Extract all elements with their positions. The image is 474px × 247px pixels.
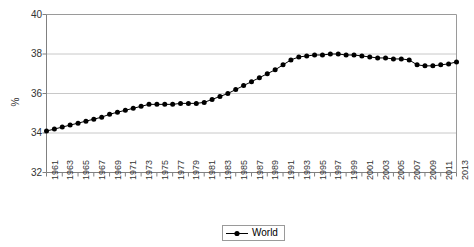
x-tick-label-1977: 1977 xyxy=(177,159,186,179)
x-tick-label-1993: 1993 xyxy=(303,159,312,179)
x-tick-label-2003: 2003 xyxy=(382,159,391,179)
data-point xyxy=(446,61,451,66)
x-tick-label-1997: 1997 xyxy=(334,159,343,179)
data-point xyxy=(344,52,349,57)
data-point xyxy=(194,101,199,106)
x-tick-label-2001: 2001 xyxy=(366,159,375,179)
data-point xyxy=(296,54,301,59)
x-tick-label-2013: 2013 xyxy=(461,159,470,179)
x-tick-label-1967: 1967 xyxy=(98,159,107,179)
data-point xyxy=(399,56,404,61)
data-point xyxy=(249,79,254,84)
x-tick-label-1969: 1969 xyxy=(114,159,123,179)
data-point xyxy=(139,104,144,109)
line-chart: % 3234363840 196119631965196719691971197… xyxy=(0,0,474,247)
data-point xyxy=(438,62,443,67)
data-point xyxy=(147,102,152,107)
data-point xyxy=(241,83,246,88)
data-point xyxy=(44,129,49,134)
data-point xyxy=(320,52,325,57)
x-tick-label-1981: 1981 xyxy=(208,159,217,179)
data-point xyxy=(367,54,372,59)
data-point xyxy=(422,63,427,68)
data-point xyxy=(178,101,183,106)
data-point xyxy=(407,57,412,62)
data-point xyxy=(257,75,262,80)
data-point xyxy=(170,102,175,107)
legend-item-world: World xyxy=(252,227,278,239)
data-point xyxy=(304,53,309,58)
x-tick-label-1973: 1973 xyxy=(145,159,154,179)
data-point xyxy=(383,55,388,60)
data-point xyxy=(68,123,73,128)
data-point xyxy=(328,52,333,57)
x-tick-label-2009: 2009 xyxy=(429,159,438,179)
data-point xyxy=(352,52,357,57)
data-point xyxy=(312,52,317,57)
x-tick-label-1965: 1965 xyxy=(82,159,91,179)
data-point xyxy=(52,127,57,132)
data-point xyxy=(107,112,112,117)
data-point xyxy=(186,101,191,106)
series-line-world xyxy=(47,54,457,131)
data-point xyxy=(131,106,136,111)
data-point xyxy=(123,108,128,113)
data-point xyxy=(60,125,65,130)
x-tick-label-1971: 1971 xyxy=(129,159,138,179)
x-tick-label-2007: 2007 xyxy=(413,159,422,179)
data-point xyxy=(76,121,81,126)
x-tick-label-1961: 1961 xyxy=(51,159,60,179)
data-point xyxy=(375,55,380,60)
legend-marker-icon xyxy=(226,229,248,238)
chart-legend: World xyxy=(222,225,285,241)
data-point xyxy=(288,57,293,62)
x-tick-label-1987: 1987 xyxy=(256,159,265,179)
x-tick-label-1999: 1999 xyxy=(350,159,359,179)
x-tick-label-1991: 1991 xyxy=(287,159,296,179)
data-point xyxy=(99,115,104,120)
data-point xyxy=(162,102,167,107)
data-point xyxy=(233,87,238,92)
data-point xyxy=(217,94,222,99)
data-point xyxy=(91,117,96,122)
data-point xyxy=(454,59,459,64)
data-point xyxy=(202,100,207,105)
x-tick-label-1979: 1979 xyxy=(192,159,201,179)
data-point xyxy=(154,102,159,107)
x-tick-label-2011: 2011 xyxy=(445,160,454,179)
data-point xyxy=(391,56,396,61)
data-point xyxy=(83,119,88,124)
plot-area xyxy=(0,0,474,247)
x-tick-label-1983: 1983 xyxy=(224,159,233,179)
data-point xyxy=(336,52,341,57)
x-tick-label-1985: 1985 xyxy=(240,159,249,179)
data-point xyxy=(210,97,215,102)
x-tick-label-1995: 1995 xyxy=(319,159,328,179)
data-point xyxy=(281,62,286,67)
x-tick-label-1975: 1975 xyxy=(161,159,170,179)
data-point xyxy=(115,110,120,115)
data-point xyxy=(359,53,364,58)
data-point xyxy=(225,91,230,96)
x-tick-label-1989: 1989 xyxy=(271,159,280,179)
x-tick-label-1963: 1963 xyxy=(66,159,75,179)
data-point xyxy=(415,62,420,67)
data-point xyxy=(273,67,278,72)
data-point xyxy=(430,63,435,68)
x-tick-label-2005: 2005 xyxy=(397,159,406,179)
data-point xyxy=(265,71,270,76)
